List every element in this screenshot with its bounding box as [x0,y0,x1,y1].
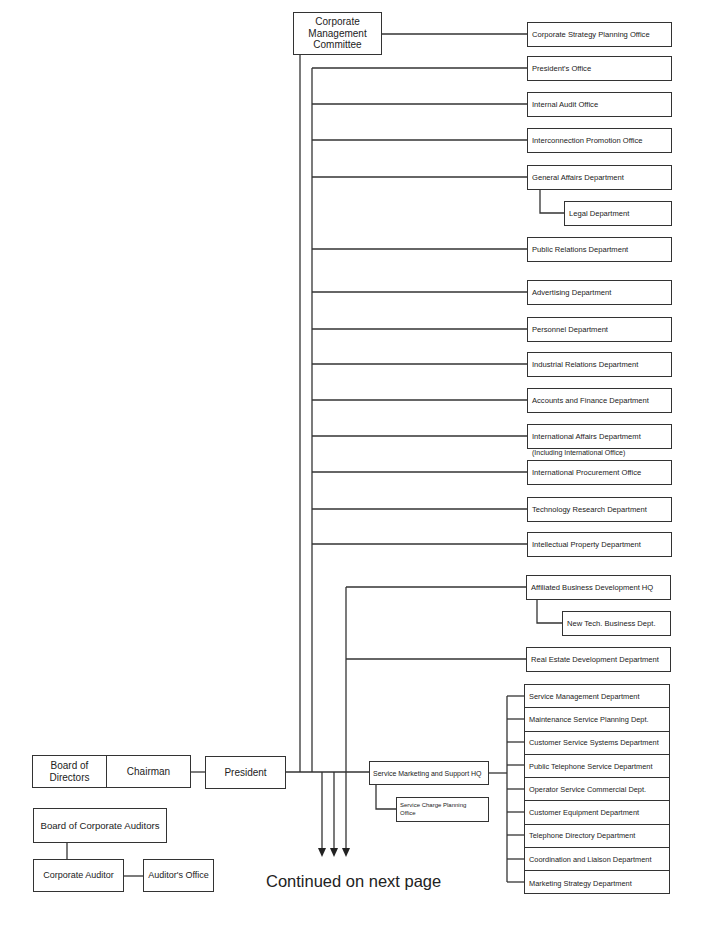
unit-label: International Affairs Departmemt [532,432,641,441]
unit-label: Advertising Department [532,288,611,297]
corporate-auditor-box: Corporate Auditor [33,859,124,892]
corporate-management-committee-label: Corporate Management Committee [308,16,366,51]
unit-label: General Affairs Department [532,173,624,182]
corporate-auditor-label: Corporate Auditor [43,870,114,880]
department-row: Telephone Directory Department [525,825,669,848]
technology-research-department-box: Technology Research Department [527,497,672,522]
auditors-office-label: Auditor's Office [148,870,209,880]
unit-label: New Tech. Business Dept. [567,619,656,628]
international-office-note: (Including International Office) [532,449,625,456]
presidents-office-box: President's Office [527,56,672,81]
continued-on-next-page-text: Continued on next page [266,872,441,891]
department-row: Service Management Department [525,685,669,708]
unit-label: Service Charge Planning Office [400,802,466,816]
advertising-department-box: Advertising Department [527,280,672,305]
public-relations-department-box: Public Relations Department [527,237,672,262]
board-of-directors-label: Board of Directors [49,760,89,783]
international-procurement-office-box: International Procurement Office [527,460,672,485]
service-charge-planning-office-box: Service Charge Planning Office [396,797,489,822]
unit-label: Interconnection Promotion Office [532,136,642,145]
unit-label: President's Office [532,64,591,73]
chairman-box: Chairman [106,755,191,788]
unit-label: Personnel Department [532,325,608,334]
interconnection-promotion-office-box: Interconnection Promotion Office [527,128,672,153]
service-marketing-and-support-hq-box: Service Marketing and Support HQ [369,761,489,785]
legal-department-box: Legal Department [564,201,672,226]
new-tech-business-dept-box: New Tech. Business Dept. [562,611,671,636]
president-label: President [224,767,266,779]
department-row: Coordination and Liaison Department [525,848,669,871]
affiliated-business-development-hq-box: Affiliated Business Development HQ [526,575,671,600]
accounts-and-finance-department-box: Accounts and Finance Department [527,388,672,413]
intellectual-property-department-box: Intellectual Property Department [527,532,672,557]
unit-label: Real Estate Development Department [531,655,659,664]
personnel-department-box: Personnel Department [527,317,672,342]
department-row: Marketing Strategy Department [525,871,669,894]
unit-label: International Procurement Office [532,468,641,477]
auditors-office-box: Auditor's Office [143,859,214,892]
unit-label: Accounts and Finance Department [532,396,649,405]
board-of-directors-box: Board of Directors [32,755,107,788]
industrial-relations-department-box: Industrial Relations Department [527,352,672,377]
department-row: Maintenance Service Planning Dept. [525,708,669,731]
department-row: Customer Service Systems Department [525,732,669,755]
unit-label: Corporate Strategy Planning Office [532,30,650,39]
unit-label: Affiliated Business Development HQ [531,583,653,592]
unit-label: Service Marketing and Support HQ [373,770,482,777]
corporate-strategy-planning-office-box: Corporate Strategy Planning Office [527,22,672,47]
unit-label: Internal Audit Office [532,100,598,109]
board-of-corporate-auditors-label: Board of Corporate Auditors [41,820,160,831]
unit-label: Technology Research Department [532,505,647,514]
general-affairs-department-box: General Affairs Department [527,165,672,190]
department-row: Customer Equipment Department [525,801,669,824]
president-box: President [205,756,286,789]
service-departments-group: Service Management Department Maintenanc… [524,684,670,894]
down-arrow-icons [318,848,350,857]
unit-label: Public Relations Department [532,245,628,254]
international-affairs-department-box: International Affairs Departmemt [527,424,672,449]
board-of-corporate-auditors-box: Board of Corporate Auditors [33,808,167,843]
department-row: Operator Service Commercial Dept. [525,778,669,801]
unit-label: Legal Department [569,209,629,218]
corporate-management-committee-box: Corporate Management Committee [293,12,382,55]
chairman-label: Chairman [127,766,170,778]
real-estate-development-department-box: Real Estate Development Department [526,647,671,672]
internal-audit-office-box: Internal Audit Office [527,92,672,117]
unit-label: Intellectual Property Department [532,540,641,549]
department-row: Public Telephone Service Department [525,755,669,778]
unit-label: Industrial Relations Department [532,360,638,369]
